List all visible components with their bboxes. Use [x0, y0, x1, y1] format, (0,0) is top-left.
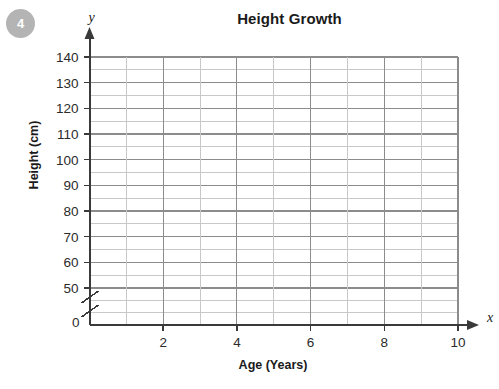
- y-axis-letter: y: [86, 10, 95, 25]
- tick-labels-group: 50607080901001101201301402468100yx: [56, 10, 494, 350]
- y-tick-label: 60: [63, 255, 78, 270]
- y-tick-label: 100: [56, 153, 79, 168]
- y-tick-label: 70: [63, 230, 78, 245]
- x-axis-arrowhead: [467, 320, 479, 330]
- axes-group: [82, 27, 480, 331]
- gridlines-group: [90, 57, 459, 325]
- y-tick-label: 80: [63, 204, 78, 219]
- y-tick-label: 110: [57, 127, 79, 142]
- y-tick-label: 90: [63, 178, 78, 193]
- y-tick-label: 50: [63, 281, 78, 296]
- x-tick-label: 2: [159, 335, 167, 350]
- origin-label: 0: [72, 315, 80, 330]
- x-tick-label: 10: [450, 335, 465, 350]
- y-tick-label: 140: [56, 50, 79, 65]
- x-tick-label: 4: [233, 335, 241, 350]
- chart-canvas: 4 Height Growth Height (cm) Age (Years) …: [0, 0, 499, 389]
- x-axis-letter: x: [486, 310, 494, 325]
- x-tick-label: 8: [381, 335, 389, 350]
- plot-area: 50607080901001101201301402468100yx: [0, 0, 499, 389]
- x-tick-label: 6: [307, 335, 315, 350]
- y-tick-label: 130: [56, 76, 79, 91]
- y-axis-arrowhead: [85, 27, 95, 39]
- y-tick-label: 120: [56, 101, 79, 116]
